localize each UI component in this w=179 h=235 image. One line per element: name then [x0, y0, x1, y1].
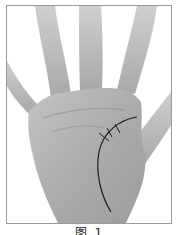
index-finger: [117, 6, 157, 94]
figure-frame: [6, 5, 172, 224]
middle-finger: [79, 6, 103, 90]
palm-illustration: [7, 6, 172, 224]
figure-caption: 图 1: [0, 226, 179, 235]
little-finger: [7, 61, 39, 114]
ring-finger: [35, 6, 71, 98]
palm: [28, 88, 145, 224]
